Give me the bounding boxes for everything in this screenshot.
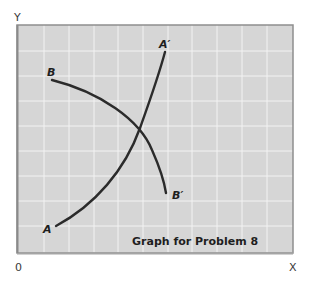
plot-area [17, 25, 293, 253]
origin-label: 0 [15, 261, 22, 274]
label-a-prime: A′ [158, 38, 171, 51]
y-axis-label: Y [13, 11, 21, 24]
x-axis-label: X [289, 261, 297, 274]
label-b-prime: B′ [172, 189, 183, 202]
label-a: A [42, 223, 52, 236]
label-b: B [47, 66, 55, 79]
chart: B A′ B′ A Graph for Problem 8 Y X 0 [0, 0, 309, 284]
graph-caption: Graph for Problem 8 [132, 235, 258, 248]
